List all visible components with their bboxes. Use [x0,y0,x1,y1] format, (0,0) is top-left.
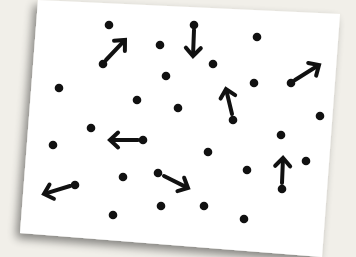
dot [49,141,58,150]
dot [174,104,183,113]
dot [71,181,80,190]
dot [200,202,209,211]
dot [253,33,262,42]
dot [133,96,142,105]
dot [119,173,128,182]
dot [87,124,96,133]
dot [209,60,218,69]
white-card [20,0,340,257]
dot [154,169,163,178]
dot [157,202,166,211]
dot [243,166,252,175]
dot [204,148,213,157]
dot [156,41,165,50]
scene: White card with scattered black dots; so… [0,0,356,257]
dot [162,72,171,81]
dot [240,215,249,224]
dot [55,84,64,93]
dot [277,131,286,140]
dot [302,157,311,166]
dot [109,211,118,220]
dot [105,21,114,30]
dot [250,79,259,88]
dot [278,185,287,194]
dot [229,116,238,125]
dot-card-canvas [0,0,356,257]
dot [316,112,325,121]
